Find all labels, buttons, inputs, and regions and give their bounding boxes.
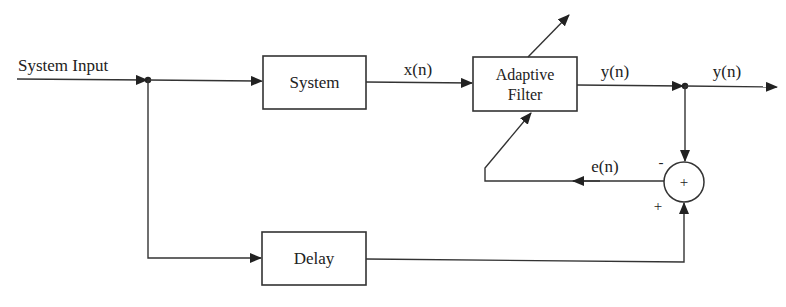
wire-to-system xyxy=(148,80,262,81)
delay-block-label: Delay xyxy=(294,249,335,268)
adaptation-arrow xyxy=(528,15,569,57)
adaptive-filter-label-line2: Filter xyxy=(508,86,543,103)
system-block: System xyxy=(263,56,366,109)
wire-error-feedback xyxy=(485,113,664,181)
wire-to-delay xyxy=(148,80,261,258)
summer-symbol: + xyxy=(680,174,688,190)
system-input-wire xyxy=(17,79,147,80)
adaptive-filter-label-line1: Adaptive xyxy=(496,66,555,84)
wire-delay-to-summer xyxy=(366,203,684,262)
signal-y-output-label: y(n) xyxy=(713,62,741,81)
wire-y-internal xyxy=(577,85,683,86)
signal-e-label: e(n) xyxy=(591,157,618,176)
wire-x xyxy=(366,82,472,83)
summer-plus-sign: + xyxy=(654,198,662,214)
summer-minus-sign: - xyxy=(659,154,664,170)
adaptive-filter-block: Adaptive Filter xyxy=(473,57,577,111)
signal-y-internal-label: y(n) xyxy=(601,62,629,81)
adaptive-filter-diagram: System Input System x(n) Adaptive Filter… xyxy=(0,0,786,307)
summing-junction: + xyxy=(664,162,704,202)
system-input-label: System Input xyxy=(18,56,108,75)
signal-x-label: x(n) xyxy=(404,60,432,79)
system-block-label: System xyxy=(289,73,339,92)
delay-block: Delay xyxy=(262,232,366,285)
wire-y-output xyxy=(685,86,777,87)
